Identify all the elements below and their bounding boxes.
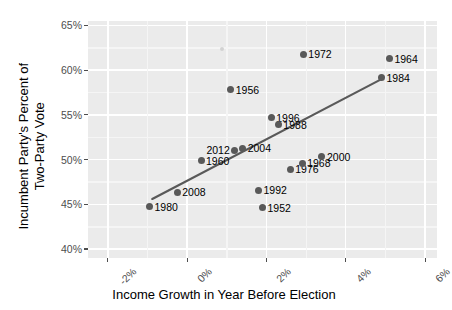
x-tick-mark [266,258,267,262]
y-tick-label: 45% [52,199,82,210]
x-tick-mark [425,258,426,262]
y-tick-label: 60% [52,65,82,76]
y-tick-label: 55% [52,110,82,121]
y-tick-label: 65% [52,20,82,31]
x-axis-title: Income Growth in Year Before Election [0,288,448,303]
y-tick-mark [84,248,88,249]
y-tick-label: 50% [52,155,82,166]
y-tick-mark [84,204,88,205]
y-tick-label: 40% [52,244,82,255]
x-tick-mark [107,258,108,262]
x-tick-mark [187,258,188,262]
y-axis-title-line1: Incumbent Party's Percent of [16,21,32,271]
y-tick-mark [84,70,88,71]
y-tick-mark [84,159,88,160]
y-tick-mark [84,114,88,115]
y-axis-title: Incumbent Party's Percent of Two-Party V… [16,21,49,271]
x-axis-title-text: Income Growth in Year Before Election [112,287,335,302]
y-axis-title-line2: Two-Party Vote [32,21,48,271]
x-tick-mark [345,258,346,262]
y-tick-mark [84,25,88,26]
